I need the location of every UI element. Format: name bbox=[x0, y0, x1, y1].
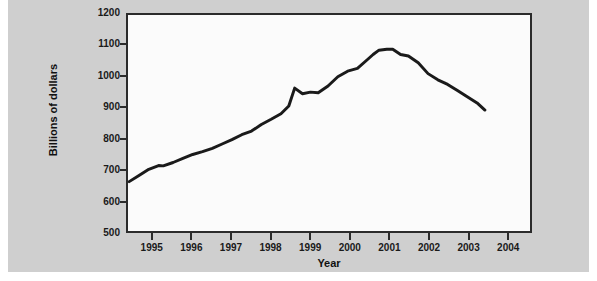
x-tick-label: 1996 bbox=[171, 242, 211, 253]
x-tick-label: 2001 bbox=[369, 242, 409, 253]
x-tick-mark bbox=[507, 233, 509, 240]
y-tick-mark bbox=[120, 106, 128, 108]
x-tick-mark bbox=[230, 233, 232, 240]
x-tick-label: 2002 bbox=[409, 242, 449, 253]
y-tick-label: 600 bbox=[86, 197, 120, 207]
x-tick-label: 1998 bbox=[251, 242, 291, 253]
figure-panel: Billions of dollars Year 120011001000900… bbox=[8, 0, 589, 272]
x-tick-mark bbox=[270, 233, 272, 240]
y-tick-label: 800 bbox=[86, 134, 120, 144]
x-tick-mark bbox=[151, 233, 153, 240]
y-tick-mark bbox=[120, 43, 128, 45]
y-tick-mark bbox=[120, 201, 128, 203]
chart-screenshot: Billions of dollars Year 120011001000900… bbox=[0, 0, 597, 281]
y-tick-label: 1100 bbox=[86, 39, 120, 49]
x-tick-mark bbox=[349, 233, 351, 240]
line-chart-svg bbox=[128, 15, 530, 231]
x-tick-mark bbox=[468, 233, 470, 240]
y-tick-mark bbox=[120, 75, 128, 77]
x-tick-mark bbox=[309, 233, 311, 240]
x-tick-label: 1997 bbox=[211, 242, 251, 253]
x-tick-label: 1999 bbox=[290, 242, 330, 253]
x-tick-mark bbox=[190, 233, 192, 240]
x-tick-mark bbox=[428, 233, 430, 240]
x-tick-label: 1995 bbox=[132, 242, 172, 253]
y-tick-label: 900 bbox=[86, 102, 120, 112]
x-tick-label: 2000 bbox=[330, 242, 370, 253]
x-axis-title: Year bbox=[126, 257, 532, 269]
y-tick-mark bbox=[120, 138, 128, 140]
plot-area bbox=[126, 13, 532, 233]
y-tick-label: 700 bbox=[86, 165, 120, 175]
y-axis-title: Billions of dollars bbox=[47, 40, 59, 180]
y-tick-label: 1000 bbox=[86, 71, 120, 81]
y-tick-label: 500 bbox=[86, 228, 120, 238]
x-tick-mark bbox=[388, 233, 390, 240]
y-tick-mark bbox=[120, 169, 128, 171]
x-tick-label: 2004 bbox=[488, 242, 528, 253]
data-series-line bbox=[129, 49, 485, 181]
x-tick-label: 2003 bbox=[449, 242, 489, 253]
y-tick-label: 1200 bbox=[86, 8, 120, 18]
y-axis-tick-labels: 120011001000900800700600500 bbox=[86, 0, 120, 281]
